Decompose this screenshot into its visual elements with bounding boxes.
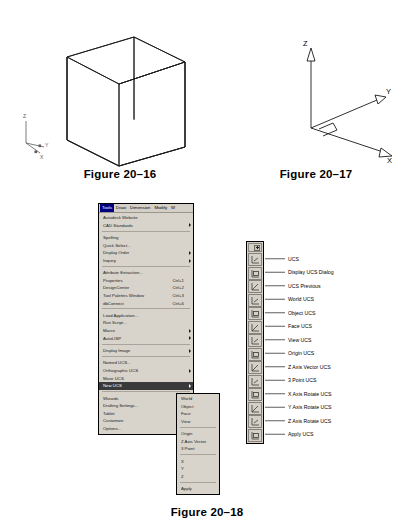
figure-2018-caption: Figure 20–18: [147, 506, 267, 518]
callout-label-ucs: UCS: [288, 256, 299, 262]
callout-label-view-ucs: View UCS: [288, 337, 312, 343]
callout-label-z-axis-vector-ucs: Z Axis Vector UCS: [288, 364, 331, 370]
callout-label-display-ucs-dialog: Display UCS Dialog: [288, 269, 334, 275]
callout-label-object-ucs: Object UCS: [288, 310, 315, 316]
toolbar-callout-lines: [0, 0, 414, 530]
callout-label-face-ucs: Face UCS: [288, 323, 312, 329]
callout-label-origin-ucs: Origin UCS: [288, 350, 314, 356]
callout-label-y-axis-rotate-ucs: Y Axis Rotate UCS: [288, 404, 331, 410]
callout-label-x-axis-rotate-ucs: X Axis Rotate UCS: [288, 391, 332, 397]
callout-label-world-ucs: World UCS: [288, 296, 314, 302]
callout-label-z-axis-rotate-ucs: Z Axis Rotate UCS: [288, 418, 331, 424]
callout-label-ucs-previous: UCS Previous: [288, 283, 321, 289]
callout-label-3-point-ucs: 3 Point UCS: [288, 377, 317, 383]
callout-label-apply-ucs: Apply UCS: [288, 431, 313, 437]
